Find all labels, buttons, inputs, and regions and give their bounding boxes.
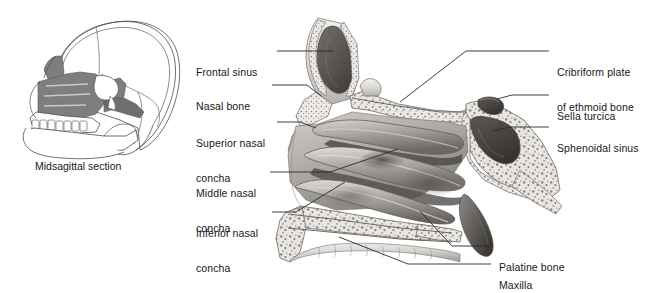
label-sphenoidal-sinus-line1: Sphenoidal sinus [557, 143, 639, 155]
label-superior-nasal-concha-line1: Superior nasal [196, 138, 265, 150]
label-nasal-bone-line1: Nasal bone [196, 101, 250, 113]
label-cribriform-plate-line1: Cribriform plate [557, 67, 634, 79]
label-inferior-nasal-concha-line2: concha [196, 263, 258, 275]
label-inferior-nasal-concha: Inferior nasal concha [196, 205, 258, 293]
label-sphenoidal-sinus: Sphenoidal sinus [557, 120, 639, 178]
label-maxilla-line1: Maxilla [499, 280, 532, 292]
label-middle-nasal-concha-line1: Middle nasal [196, 188, 256, 200]
label-inferior-nasal-concha-line1: Inferior nasal [196, 228, 258, 240]
label-maxilla: Maxilla [499, 257, 532, 293]
inset-caption: Midsagittal section [35, 160, 121, 172]
